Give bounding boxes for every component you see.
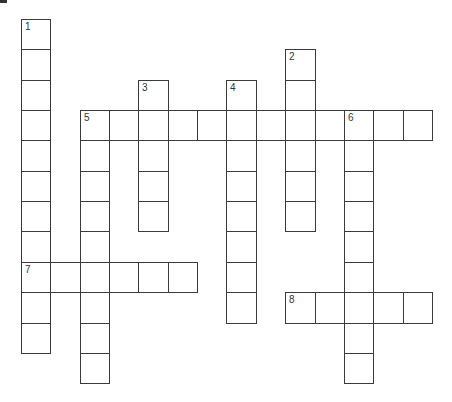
clue-number: 3 bbox=[142, 83, 148, 93]
crossword-cell[interactable] bbox=[344, 292, 374, 324]
crossword-cell[interactable] bbox=[285, 80, 316, 111]
crossword-cell[interactable] bbox=[21, 201, 51, 232]
crossword-cell[interactable] bbox=[168, 110, 198, 141]
crossword-cell[interactable] bbox=[21, 171, 51, 202]
clue-number: 4 bbox=[230, 83, 236, 93]
crossword-cell[interactable] bbox=[344, 201, 374, 232]
crossword-cell[interactable] bbox=[80, 140, 110, 172]
crossword-cell[interactable] bbox=[80, 353, 110, 384]
crossword-cell[interactable] bbox=[315, 292, 345, 324]
clue-number: 1 bbox=[25, 22, 31, 32]
crossword-cell[interactable] bbox=[344, 140, 374, 172]
crossword-cell[interactable] bbox=[285, 171, 316, 202]
crossword-cell[interactable] bbox=[373, 292, 404, 324]
crossword-cell[interactable]: 7 bbox=[21, 262, 51, 293]
crossword-cell[interactable] bbox=[80, 262, 110, 293]
crossword-cell[interactable] bbox=[285, 110, 316, 141]
crossword-cell[interactable] bbox=[21, 231, 51, 263]
crossword-cell[interactable] bbox=[226, 171, 257, 202]
crossword-cell[interactable] bbox=[21, 49, 51, 81]
clue-number: 8 bbox=[289, 295, 295, 305]
crossword-cell[interactable] bbox=[138, 262, 169, 293]
crossword-cell[interactable] bbox=[226, 140, 257, 172]
crossword-cell[interactable] bbox=[403, 110, 433, 141]
crossword-cell[interactable] bbox=[373, 110, 404, 141]
crossword-cell[interactable] bbox=[226, 262, 257, 293]
crossword-cell[interactable] bbox=[197, 110, 227, 141]
crossword-cell[interactable] bbox=[256, 110, 286, 141]
crossword-cell[interactable] bbox=[315, 110, 345, 141]
crossword-cell[interactable] bbox=[226, 201, 257, 232]
crossword-cell[interactable]: 8 bbox=[285, 292, 316, 324]
crossword-cell[interactable] bbox=[21, 292, 51, 324]
crossword-cell[interactable] bbox=[109, 110, 139, 141]
crossword-cell[interactable] bbox=[344, 353, 374, 384]
crossword-cell[interactable] bbox=[50, 262, 81, 293]
crossword-cell[interactable] bbox=[403, 292, 433, 324]
crossword-cell[interactable] bbox=[285, 201, 316, 232]
crossword-cell[interactable] bbox=[168, 262, 198, 293]
crossword-cell[interactable] bbox=[109, 262, 139, 293]
clue-number: 2 bbox=[289, 52, 295, 62]
crossword-cell[interactable]: 5 bbox=[80, 110, 110, 141]
crossword-cell[interactable] bbox=[21, 110, 51, 141]
crossword-cell[interactable] bbox=[80, 231, 110, 263]
crossword-cell[interactable] bbox=[285, 140, 316, 172]
crossword-cell[interactable] bbox=[344, 323, 374, 354]
crossword-cell[interactable]: 1 bbox=[21, 19, 51, 50]
crossword-cell[interactable]: 2 bbox=[285, 49, 316, 81]
crossword-cell[interactable] bbox=[226, 292, 257, 324]
crossword-cell[interactable] bbox=[21, 140, 51, 172]
crossword-cell[interactable] bbox=[80, 171, 110, 202]
crossword-cell[interactable] bbox=[21, 80, 51, 111]
clue-number: 7 bbox=[25, 265, 31, 275]
crossword-cell[interactable]: 4 bbox=[226, 80, 257, 111]
crossword-grid: 17234568 bbox=[0, 0, 452, 402]
crossword-cell[interactable] bbox=[344, 231, 374, 263]
crossword-cell[interactable] bbox=[138, 110, 169, 141]
crossword-cell[interactable] bbox=[80, 201, 110, 232]
crossword-cell[interactable] bbox=[344, 171, 374, 202]
crossword-cell[interactable] bbox=[138, 201, 169, 232]
clue-number: 6 bbox=[348, 113, 354, 123]
crossword-cell[interactable] bbox=[138, 140, 169, 172]
crossword-cell[interactable] bbox=[226, 231, 257, 263]
crossword-cell[interactable]: 6 bbox=[344, 110, 374, 141]
crossword-cell[interactable] bbox=[21, 323, 51, 354]
clue-number: 5 bbox=[84, 113, 90, 123]
crossword-cell[interactable] bbox=[80, 292, 110, 324]
crossword-cell[interactable] bbox=[80, 323, 110, 354]
crossword-cell[interactable] bbox=[138, 171, 169, 202]
crossword-cell[interactable] bbox=[226, 110, 257, 141]
crossword-cell[interactable] bbox=[344, 262, 374, 293]
crossword-cell[interactable]: 3 bbox=[138, 80, 169, 111]
